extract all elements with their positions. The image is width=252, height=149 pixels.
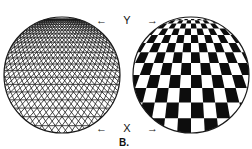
left-sphere-outline [4,17,120,133]
arrow-left-icon: ← [96,123,107,134]
arrow-right-icon: → [147,15,158,26]
y-axis-label: Y [123,14,130,26]
x-axis-indicator: ← X → [96,122,158,134]
arrow-left-icon: ← [96,15,107,26]
arrow-right-icon: → [147,123,158,134]
checkerboard-sphere [87,17,252,135]
y-axis-indicator: ← Y → [96,14,158,26]
x-axis-label: X [123,122,130,134]
figure-caption: B. [119,137,129,148]
